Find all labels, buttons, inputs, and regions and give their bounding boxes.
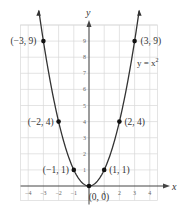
point-label: (−2, 4) xyxy=(28,117,54,128)
y-tick-label: 4 xyxy=(83,119,86,125)
x-tick-label: −3 xyxy=(40,190,46,196)
y-tick-label: 6 xyxy=(83,86,86,92)
y-tick-label: 1 xyxy=(83,167,86,173)
parabola-chart: −4−3−2−11234123456789 (−3, 9)(−2, 4)(−1,… xyxy=(0,0,184,220)
data-point xyxy=(102,168,107,173)
data-point xyxy=(56,119,61,124)
point-label: (−1, 1) xyxy=(43,165,69,176)
data-point xyxy=(117,119,122,124)
x-tick-label: 4 xyxy=(148,190,151,196)
y-tick-label: 3 xyxy=(83,135,86,141)
y-tick-label: 2 xyxy=(83,151,86,157)
y-axis-label: y xyxy=(85,7,91,18)
y-tick-label: 9 xyxy=(83,38,86,44)
point-label: (1, 1) xyxy=(109,165,130,176)
data-point xyxy=(132,39,137,44)
data-point xyxy=(87,184,92,189)
equation-label: y = x2 xyxy=(137,57,159,68)
data-point xyxy=(72,168,77,173)
x-axis-label: x xyxy=(171,181,177,192)
point-label: (3, 9) xyxy=(141,36,162,47)
y-tick-label: 7 xyxy=(83,70,86,76)
y-tick-label: 8 xyxy=(83,54,86,60)
data-point xyxy=(41,39,46,44)
x-tick-label: −2 xyxy=(55,190,61,196)
point-label: (0, 0) xyxy=(89,192,110,203)
x-tick-label: −4 xyxy=(25,190,31,196)
x-tick-label: 3 xyxy=(133,190,136,196)
point-label: (−3, 9) xyxy=(10,36,36,47)
point-label: (2, 4) xyxy=(124,117,145,128)
x-tick-label: −1 xyxy=(71,190,77,196)
x-tick-label: 2 xyxy=(118,190,121,196)
y-tick-label: 5 xyxy=(83,103,86,109)
